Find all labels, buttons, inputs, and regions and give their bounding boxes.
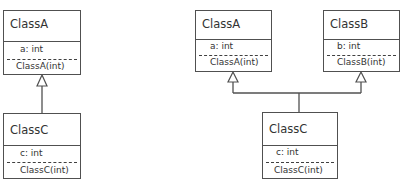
dashed-divider [266, 162, 334, 163]
class-attribute: b: int [337, 41, 360, 51]
dashed-divider [7, 162, 77, 163]
class-name: ClassB [330, 17, 368, 31]
class-method: ClassA(int) [210, 57, 259, 67]
class-method: ClassC(int) [274, 165, 323, 175]
compartment-divider [4, 145, 80, 146]
class-name: ClassC [269, 122, 307, 136]
class-name: ClassC [10, 123, 48, 137]
compartment-divider [263, 145, 337, 146]
class-attribute: a: int [210, 41, 233, 51]
compartment-divider [324, 39, 399, 40]
generalization-arrow-icon [37, 75, 47, 86]
compartment-divider [196, 39, 271, 40]
class-attribute: a: int [20, 44, 43, 54]
class-attribute: c: int [20, 148, 43, 158]
dashed-divider [199, 55, 268, 56]
compartment-divider [4, 41, 80, 42]
uml-class-box-right-classB: ClassB b: int ClassB(int) [323, 10, 400, 72]
class-method: ClassA(int) [16, 61, 65, 71]
uml-class-box-left-classA: ClassA a: int ClassA(int) [3, 10, 81, 75]
uml-class-box-right-classA: ClassA a: int ClassA(int) [195, 10, 272, 72]
dashed-divider [7, 59, 77, 60]
uml-class-box-right-classC: ClassC c: int ClassC(int) [262, 112, 338, 179]
class-attribute: c: int [276, 147, 299, 157]
dashed-divider [327, 55, 396, 56]
uml-class-box-left-classC: ClassC c: int ClassC(int) [3, 113, 81, 179]
generalization-arrow-icon [356, 72, 366, 82]
class-name: ClassA [202, 17, 240, 31]
class-method: ClassC(int) [20, 165, 69, 175]
class-method: ClassB(int) [337, 57, 386, 67]
class-name: ClassA [10, 17, 48, 31]
generalization-arrow-icon [228, 72, 238, 82]
